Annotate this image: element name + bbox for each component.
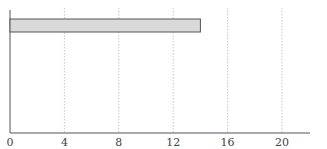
x-tick-label: 16 (221, 136, 235, 149)
x-tick-labels: 048121620 (7, 136, 290, 149)
bar-chart: 048121620 (0, 0, 327, 149)
x-tick-label: 0 (7, 136, 14, 149)
x-tick-label: 8 (115, 136, 122, 149)
x-tick-label: 4 (61, 136, 68, 149)
bar (10, 19, 200, 32)
x-tick-label: 12 (166, 136, 180, 149)
x-tick-label: 20 (275, 136, 289, 149)
bars (10, 19, 200, 32)
